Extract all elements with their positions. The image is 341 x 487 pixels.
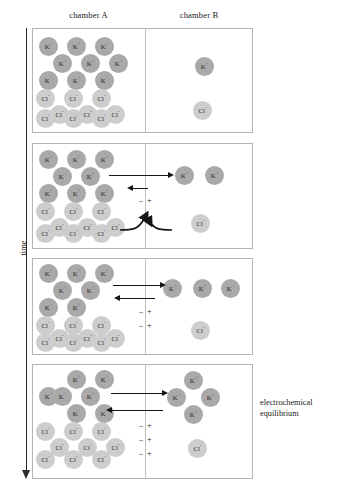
- equilibrium-annotation: electrochemical equilibrium: [260, 398, 338, 419]
- potassium-ion: K+: [221, 279, 240, 298]
- potassium-ion: K+: [95, 150, 114, 169]
- membrane-charge-pair: –+: [132, 421, 158, 430]
- chamber-a-header: chamber A: [32, 10, 145, 20]
- potassium-ion: K+: [67, 264, 86, 283]
- potassium-ion: K+: [95, 264, 114, 283]
- potassium-ion: K+: [67, 150, 86, 169]
- arrow-shaft: [109, 175, 169, 177]
- potassium-ion: K+: [205, 166, 224, 185]
- chloride-ion: Cl-: [191, 321, 210, 340]
- chloride-ion: Cl-: [188, 439, 207, 458]
- positive-charge-symbol: +: [147, 421, 158, 430]
- membrane-charge-pair: –+: [132, 435, 158, 444]
- arrow-head-icon: [106, 407, 112, 413]
- potassium-ion: K+: [81, 387, 100, 406]
- chloride-ion: Cl-: [36, 89, 55, 108]
- chloride-ion: Cl-: [36, 109, 55, 128]
- chloride-ion: Cl-: [92, 224, 111, 243]
- chloride-ion: Cl-: [64, 202, 83, 221]
- arrow-head-icon: [114, 295, 120, 301]
- arrow-shaft: [119, 298, 155, 300]
- membrane-charge-pair: –+: [132, 321, 158, 330]
- potassium-ion: K+: [184, 405, 203, 424]
- potassium-ion: K+: [67, 298, 86, 317]
- negative-charge-symbol: –: [132, 321, 143, 330]
- chloride-ion: Cl-: [36, 333, 55, 352]
- time-axis-label: time: [18, 226, 28, 270]
- chloride-ion: Cl-: [36, 202, 55, 221]
- chloride-ion: Cl-: [92, 333, 111, 352]
- arrow-shaft: [111, 410, 163, 412]
- potassium-ion: K+: [195, 57, 214, 76]
- potassium-ion: K+: [39, 71, 58, 90]
- arrow-head-icon: [168, 172, 174, 178]
- potassium-ion: K+: [81, 281, 100, 300]
- potassium-ion: K+: [39, 37, 58, 56]
- positive-charge-symbol: +: [147, 196, 158, 205]
- potassium-ion: K+: [81, 54, 100, 73]
- chloride-ion: Cl-: [92, 109, 111, 128]
- potassium-ion: K+: [39, 298, 58, 317]
- membrane-charge-pair: –+: [132, 196, 158, 205]
- negative-charge-symbol: –: [132, 449, 143, 458]
- potassium-ion: K+: [39, 264, 58, 283]
- panel-potassium-efflux-begins: K+K+K+K+K+K+K+K+Cl-Cl-Cl-Cl-Cl-Cl-Cl-Cl-…: [32, 143, 253, 249]
- chloride-ion: Cl-: [64, 333, 83, 352]
- crossed-arrow-icon: [118, 210, 174, 236]
- potassium-ion: K+: [53, 167, 72, 186]
- efflux-arrow-leftward: [119, 295, 155, 302]
- arrow-head-icon: [160, 282, 166, 288]
- time-axis-arrowhead-icon: [22, 470, 30, 479]
- potassium-ion: K+: [193, 279, 212, 298]
- potassium-ion: K+: [67, 370, 86, 389]
- chloride-ion: Cl-: [193, 101, 212, 120]
- chloride-ion: Cl-: [64, 450, 83, 469]
- potassium-ion: K+: [67, 37, 86, 56]
- negative-charge-symbol: –: [132, 435, 143, 444]
- positive-charge-symbol: +: [147, 307, 158, 316]
- potassium-ion: K+: [95, 370, 114, 389]
- potassium-ion: K+: [95, 184, 114, 203]
- positive-charge-symbol: +: [147, 435, 158, 444]
- potassium-ion: K+: [39, 184, 58, 203]
- membrane-divider: [145, 29, 146, 132]
- arrow-head-icon: [162, 390, 168, 396]
- potassium-ion: K+: [67, 404, 86, 423]
- negative-charge-symbol: –: [132, 421, 143, 430]
- efflux-arrow-leftward: [111, 407, 163, 414]
- membrane-charge-pair: –+: [132, 307, 158, 316]
- chloride-ion: Cl-: [92, 450, 111, 469]
- positive-charge-symbol: +: [147, 321, 158, 330]
- potassium-ion: K+: [67, 71, 86, 90]
- chloride-ion: Cl-: [64, 224, 83, 243]
- arrow-shaft: [132, 188, 148, 190]
- positive-charge-symbol: +: [147, 449, 158, 458]
- chloride-ion: Cl-: [92, 422, 111, 441]
- panel-potential-builds: K+K+K+K+K+K+K+Cl-Cl-Cl-Cl-Cl-Cl-Cl-Cl-Cl…: [32, 258, 253, 355]
- chloride-ion: Cl-: [64, 109, 83, 128]
- arrow-shaft: [113, 285, 161, 287]
- potassium-ion: K+: [81, 167, 100, 186]
- chloride-ion: Cl-: [36, 450, 55, 469]
- panel-electrochemical-equilibrium: K+K+K+K+K+K+K+Cl-Cl-Cl-Cl-Cl-Cl-Cl-Cl-Cl…: [32, 364, 253, 479]
- chloride-ion: Cl-: [64, 89, 83, 108]
- potassium-ion: K+: [39, 387, 58, 406]
- chloride-ion: Cl-: [64, 422, 83, 441]
- chloride-ion: Cl-: [92, 202, 111, 221]
- potassium-ion: K+: [53, 54, 72, 73]
- negative-charge-symbol: –: [132, 307, 143, 316]
- potassium-ion: K+: [53, 281, 72, 300]
- efflux-arrow-leftward: [132, 185, 148, 192]
- arrow-head-icon: [127, 185, 133, 191]
- electrochemical-equilibrium-figure: chamber A chamber B time K+K+K+K+K+K+K+K…: [0, 0, 341, 487]
- chloride-ion: Cl-: [36, 224, 55, 243]
- arrow-shaft: [111, 393, 163, 395]
- potassium-ion: K+: [67, 184, 86, 203]
- membrane-charge-pair: –+: [132, 449, 158, 458]
- chloride-ion: Cl-: [92, 89, 111, 108]
- influx-arrow-rightward: [113, 282, 161, 289]
- influx-arrow-rightward: [111, 390, 163, 397]
- negative-charge-symbol: –: [132, 196, 143, 205]
- potassium-ion: K+: [201, 388, 220, 407]
- influx-arrow-rightward: [109, 172, 169, 179]
